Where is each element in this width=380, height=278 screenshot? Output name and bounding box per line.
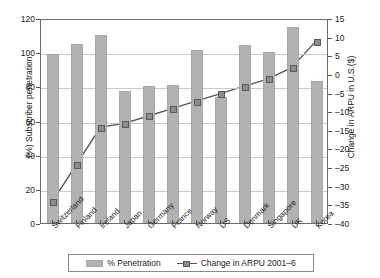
y-axis-right-tickmark — [328, 19, 332, 20]
bar-germany — [143, 86, 155, 223]
marker-singapore — [266, 76, 273, 83]
bar-denmark — [239, 45, 251, 223]
marker-france — [170, 106, 177, 113]
x-axis-tickmark — [220, 220, 221, 224]
y-axis-right-tickmark — [328, 149, 332, 150]
y-axis-right-tickmark — [328, 38, 332, 39]
marker-germany — [146, 113, 153, 120]
y-axis-left-tick: 40 — [26, 151, 35, 161]
y-axis-right-tickmark — [328, 56, 332, 57]
y-axis-right: 151050–5–10–15–20–25–30–35–40 — [328, 19, 362, 224]
marker-switzerland — [50, 199, 57, 206]
y-axis-left: 020406080100120 — [0, 19, 40, 224]
y-axis-left-tick: 100 — [21, 48, 35, 58]
x-axis-tickmark — [148, 220, 149, 224]
marker-norway — [194, 99, 201, 106]
y-axis-right-tickmark — [328, 75, 332, 76]
bar-japan — [119, 91, 131, 223]
y-axis-right-tick: 10 — [335, 33, 344, 43]
marker-finland — [74, 162, 81, 169]
bar-switzerland — [47, 54, 59, 223]
y-axis-left-tick: 80 — [26, 82, 35, 92]
bar-uk — [287, 27, 299, 223]
gridline — [41, 54, 327, 55]
y-axis-left-tick: 0 — [30, 219, 35, 229]
gridline — [41, 123, 327, 124]
x-axis-tickmark — [292, 220, 293, 224]
y-axis-right-tick: –40 — [335, 219, 349, 229]
marker-uk — [290, 65, 297, 72]
marker-korea — [314, 39, 321, 46]
x-axis-tickmark — [316, 220, 317, 224]
y-axis-left-tick: 120 — [21, 14, 35, 24]
chart-figure: (%) Subscriber penetration 0204060801001… — [0, 0, 380, 278]
y-axis-right-tickmark — [328, 94, 332, 95]
legend-item-penetration: % Penetration — [86, 258, 160, 268]
marker-denmark — [242, 84, 249, 91]
y-axis-right-tickmark — [328, 187, 332, 188]
x-axis-tickmark — [124, 220, 125, 224]
legend-label-penetration: % Penetration — [107, 258, 160, 268]
line-marker-swatch-icon — [177, 260, 197, 267]
x-axis-tickmark — [100, 220, 101, 224]
y-axis-right-title: Change in ARPU in U.S.($) — [346, 12, 356, 202]
arpu-line — [41, 20, 327, 223]
marker-japan — [122, 121, 129, 128]
x-axis-tickmark — [196, 220, 197, 224]
x-axis-tickmark — [268, 220, 269, 224]
y-axis-left-tick: 20 — [26, 185, 35, 195]
legend-label-arpu: Change in ARPU 2001–6 — [201, 258, 296, 268]
y-axis-right-tick: 0 — [335, 70, 340, 80]
x-axis-tickmark — [172, 220, 173, 224]
bar-us — [215, 97, 227, 223]
plot-area — [40, 19, 328, 224]
y-axis-right-tickmark — [328, 112, 332, 113]
y-axis-left-tick: 60 — [26, 117, 35, 127]
gridline — [41, 157, 327, 158]
y-axis-right-tickmark — [328, 131, 332, 132]
gridline — [41, 88, 327, 89]
marker-ireland — [98, 125, 105, 132]
y-axis-right-tick: 15 — [335, 14, 344, 24]
marker-us — [218, 91, 225, 98]
y-axis-right-tick: –5 — [335, 89, 344, 99]
legend-item-arpu: Change in ARPU 2001–6 — [177, 258, 296, 268]
bar-swatch-icon — [86, 260, 103, 267]
x-axis-tickmark — [244, 220, 245, 224]
gridline — [41, 191, 327, 192]
x-axis-tickmark — [76, 220, 77, 224]
chart-legend: % Penetration Change in ARPU 2001–6 — [68, 254, 314, 272]
bar-norway — [191, 50, 203, 223]
y-axis-right-tickmark — [328, 205, 332, 206]
y-axis-right-tickmark — [328, 224, 332, 225]
y-axis-right-tick: 5 — [335, 51, 340, 61]
arpu-line-path — [53, 42, 315, 201]
x-axis-tickmark — [52, 220, 53, 224]
y-axis-right-tickmark — [328, 168, 332, 169]
bar-korea — [311, 81, 323, 223]
